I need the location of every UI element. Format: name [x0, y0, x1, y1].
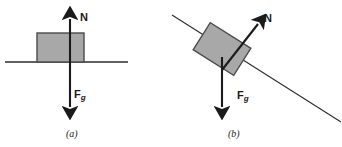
normal-force-label-a-text: N [80, 11, 88, 23]
panel-b-drawing [171, 0, 342, 147]
physics-free-body-diagram-figure: N Fg (a) N [0, 0, 342, 147]
gravity-force-label-a-subscript: g [81, 93, 86, 102]
panel-b-inclined-surface: N Fg (b) [171, 0, 342, 147]
gravity-force-label-a: Fg [74, 89, 86, 102]
gravity-force-label-b: Fg [237, 90, 249, 103]
gravity-force-label-b-text: F [237, 89, 244, 101]
gravity-force-label-a-text: F [74, 88, 81, 100]
gravity-force-label-b-subscript: g [244, 94, 249, 103]
block-a [37, 33, 84, 62]
normal-force-label-a: N [80, 12, 88, 23]
panel-a-caption: (a) [66, 129, 78, 139]
normal-force-label-b-text: N [264, 12, 272, 24]
panel-a-horizontal-surface: N Fg (a) [0, 0, 171, 147]
inclined-surface-line [172, 15, 341, 122]
panel-b-caption: (b) [228, 129, 240, 139]
normal-force-label-b: N [264, 13, 272, 24]
